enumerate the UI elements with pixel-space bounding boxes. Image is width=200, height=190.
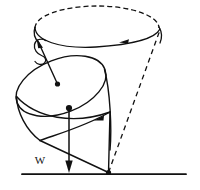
figure-canvas: W — [0, 0, 200, 190]
precession-direction-arrowhead — [119, 39, 129, 43]
spinning-top-figure: W — [0, 0, 200, 190]
precession-ellipse-upper-dashed — [35, 6, 159, 28]
tip-right-edge — [109, 112, 111, 173]
precession-ellipse-lower-solid — [35, 28, 160, 47]
weight-force-arrowhead — [65, 161, 72, 174]
spin-axis-origin-dot — [55, 81, 60, 86]
top-left-wall — [17, 97, 41, 141]
top-body-cut-arc — [17, 97, 111, 119]
tip-left-edge — [40, 141, 109, 173]
precession-cone-dashed-generator — [109, 30, 161, 173]
center-of-mass-dot — [66, 105, 72, 111]
spin-direction-curl-icon — [34, 39, 45, 64]
weight-label: W — [35, 154, 46, 166]
